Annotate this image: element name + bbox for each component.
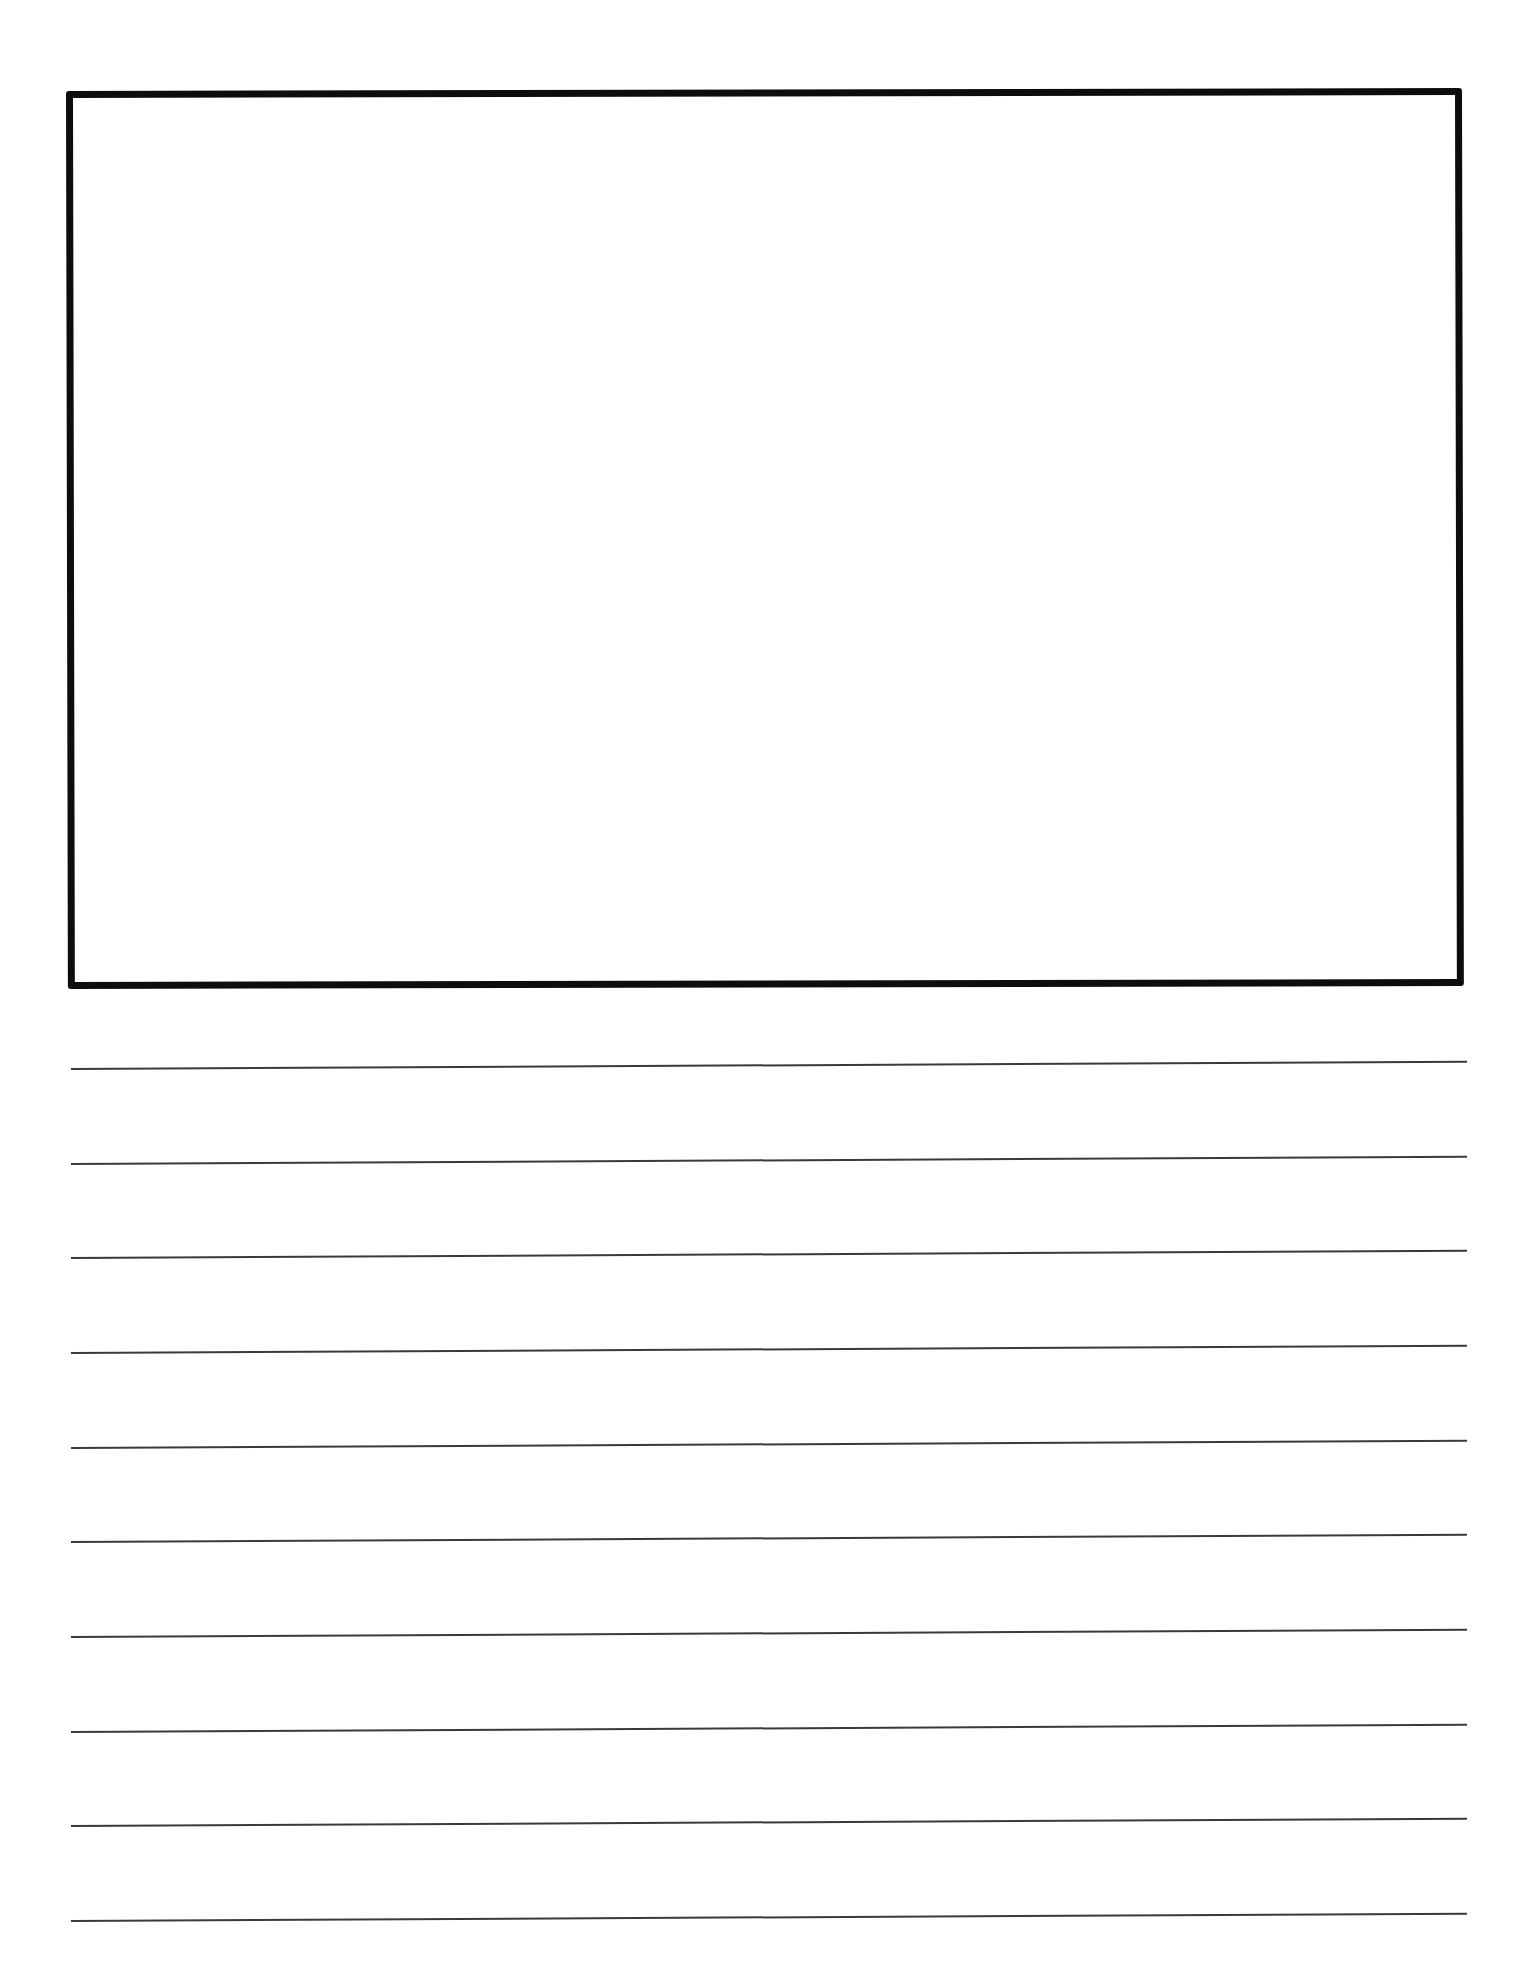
writing-lines-area (0, 0, 1525, 1987)
writing-line-9 (71, 1818, 1467, 1827)
writing-line-6 (71, 1534, 1467, 1543)
writing-line-2 (71, 1156, 1467, 1165)
writing-line-10 (71, 1913, 1467, 1922)
worksheet-page (0, 0, 1525, 1987)
writing-line-4 (71, 1345, 1467, 1354)
writing-line-1 (71, 1061, 1467, 1070)
writing-line-7 (71, 1629, 1467, 1638)
writing-line-5 (71, 1440, 1467, 1449)
writing-line-3 (71, 1250, 1467, 1259)
writing-line-8 (71, 1724, 1467, 1733)
